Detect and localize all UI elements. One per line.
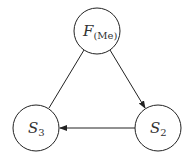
node-s2-label: S: [150, 119, 160, 137]
node-s2-subscript: 2: [160, 127, 166, 138]
node-f-me: F(Me): [74, 8, 120, 54]
node-s3-label: S: [28, 119, 38, 137]
node-f-subscript: (Me): [93, 30, 117, 41]
cycle-diagram: F(Me) S2 S3: [0, 0, 191, 166]
node-s3-subscript: 3: [38, 127, 44, 138]
node-f-label: F: [82, 22, 94, 40]
node-s3: S3: [13, 105, 59, 151]
node-s2: S2: [135, 105, 181, 151]
edge-f-to-s2: [110, 50, 145, 108]
edge-f-to-s3: [49, 50, 84, 108]
